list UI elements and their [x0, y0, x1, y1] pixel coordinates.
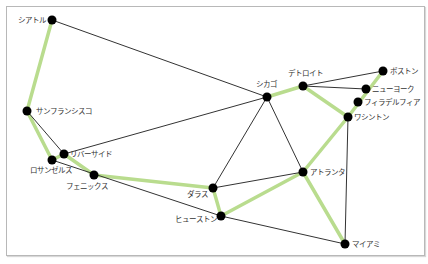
- node-newyork: [362, 85, 371, 94]
- edges: [27, 20, 383, 244]
- node-washington: [344, 113, 353, 122]
- edge-chicago-atlanta: [267, 97, 303, 172]
- edge-houston-atlanta: [221, 172, 303, 216]
- node-label-philadelphia: フィラデルフィア: [364, 97, 420, 107]
- edge-seattle-sanfrancisco: [27, 20, 52, 111]
- node-label-riverside: リバーサイド: [70, 150, 112, 159]
- node-boston: [379, 67, 388, 76]
- edge-atlanta-washington: [303, 117, 348, 172]
- node-chicago: [263, 93, 272, 102]
- node-label-newyork: ニューヨーク: [372, 85, 414, 94]
- node-label-chicago: シカゴ: [256, 79, 278, 89]
- node-label-phoenix: フェニックス: [66, 182, 108, 191]
- node-label-losangeles: ロサンゼルス: [30, 165, 72, 175]
- node-label-dallas: ダラス: [187, 189, 208, 199]
- edge-riverside-chicago: [64, 97, 267, 154]
- node-label-miami: マイアミ: [352, 240, 380, 249]
- edge-washington-miami: [345, 117, 348, 244]
- node-houston: [217, 212, 226, 221]
- node-miami: [341, 240, 350, 249]
- node-label-detroit: デトロイト: [288, 68, 323, 78]
- node-atlanta: [299, 168, 308, 177]
- node-label-boston: ボストン: [390, 67, 418, 76]
- edge-atlanta-miami: [303, 172, 345, 244]
- node-label-sanfrancisco: サンフランシスコ: [36, 107, 92, 116]
- node-philadelphia: [354, 98, 363, 107]
- edge-phoenix-dallas: [94, 175, 213, 188]
- edge-chicago-dallas: [213, 97, 267, 188]
- node-label-atlanta: アトランタ: [310, 168, 345, 177]
- network-graph: シアトルサンフランシスコリバーサイドロサンゼルスフェニックスダラスヒューストンシ…: [0, 0, 428, 264]
- edge-washington-boston: [348, 71, 383, 117]
- node-seattle: [48, 16, 57, 25]
- node-phoenix: [90, 171, 99, 180]
- node-dallas: [209, 184, 218, 193]
- edge-detroit-newyork: [303, 86, 366, 89]
- node-losangeles: [48, 156, 57, 165]
- edge-houston-miami: [221, 216, 345, 244]
- node-label-seattle: シアトル: [18, 16, 47, 25]
- node-detroit: [299, 82, 308, 91]
- node-sanfrancisco: [23, 107, 32, 116]
- nodes: [23, 16, 388, 249]
- edge-seattle-chicago: [52, 20, 267, 97]
- node-label-houston: ヒューストン: [175, 215, 217, 224]
- edge-washington-detroit: [303, 86, 348, 117]
- node-riverside: [60, 150, 69, 159]
- node-label-washington: ワシントン: [354, 113, 389, 122]
